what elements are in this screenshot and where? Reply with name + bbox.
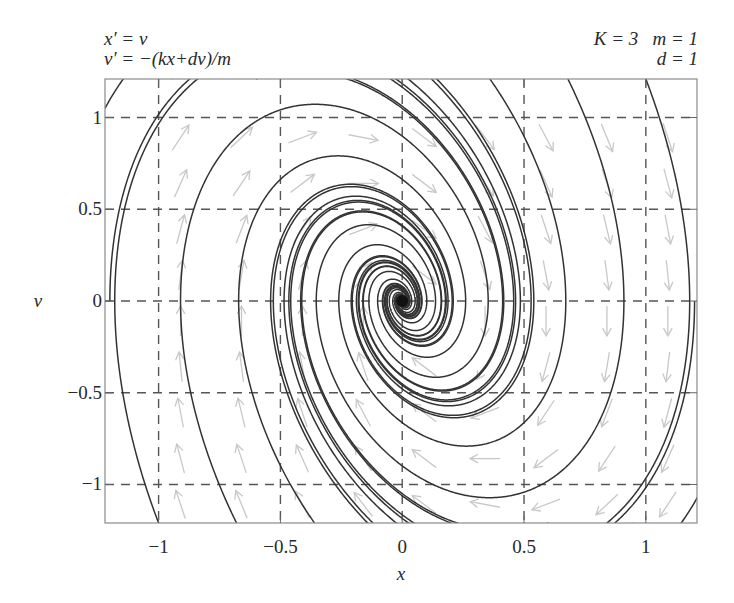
phase-portrait-plot xyxy=(0,0,734,603)
direction-arrow-icon xyxy=(541,215,552,243)
direction-arrow-icon xyxy=(412,450,436,468)
x-axis-label: x xyxy=(397,563,405,585)
direction-arrow-icon xyxy=(290,174,314,192)
direction-arrow-icon xyxy=(603,306,612,336)
direction-arrow-icon xyxy=(532,499,560,511)
trajectory-curve xyxy=(316,79,624,498)
x-tick-label: 0.5 xyxy=(512,537,536,557)
direction-arrow-icon xyxy=(540,170,553,197)
direction-arrow-icon xyxy=(288,131,316,143)
direction-arrow-icon xyxy=(664,260,673,290)
direction-arrow-icon xyxy=(231,127,253,148)
direction-arrow-icon xyxy=(543,260,551,289)
direction-arrow-icon xyxy=(235,444,246,472)
direction-arrow-icon xyxy=(172,125,189,150)
direction-arrow-icon xyxy=(412,129,436,147)
direction-arrow-icon xyxy=(601,124,613,152)
x-tick-label: −1 xyxy=(148,537,168,557)
direction-arrow-icon xyxy=(539,124,553,150)
direction-arrow-icon xyxy=(356,399,370,425)
y-tick-label: 0 xyxy=(93,291,103,311)
x-tick-label: −0.5 xyxy=(263,537,297,557)
direction-arrow-icon xyxy=(175,398,183,427)
x-tick-label: 0 xyxy=(397,537,407,557)
direction-arrow-icon xyxy=(663,352,672,382)
direction-arrow-icon xyxy=(175,170,188,197)
direction-arrow-icon xyxy=(175,444,185,473)
direction-arrow-icon xyxy=(599,446,616,471)
direction-arrow-icon xyxy=(296,445,309,472)
direction-arrow-icon xyxy=(664,306,673,336)
x-tick-label: 1 xyxy=(641,537,651,557)
direction-arrow-icon xyxy=(235,491,247,519)
direction-arrow-icon xyxy=(600,399,612,427)
direction-arrow-icon xyxy=(542,306,551,336)
direction-arrow-icon xyxy=(540,352,550,381)
direction-arrow-icon xyxy=(596,494,618,515)
direction-arrow-icon xyxy=(662,398,672,427)
y-tick-label: 0.5 xyxy=(78,199,102,219)
direction-arrow-icon xyxy=(470,454,500,463)
direction-field xyxy=(172,123,676,518)
y-tick-label: 1 xyxy=(93,108,103,128)
direction-arrow-icon xyxy=(665,215,673,244)
direction-arrow-icon xyxy=(534,450,558,468)
direction-arrow-icon xyxy=(664,169,674,198)
y-tick-label: −1 xyxy=(82,474,102,494)
direction-arrow-icon xyxy=(349,135,378,143)
direction-arrow-icon xyxy=(177,215,187,244)
direction-arrow-icon xyxy=(602,352,611,382)
direction-arrow-icon xyxy=(233,171,250,196)
y-axis-label: ν xyxy=(34,290,42,312)
direction-arrow-icon xyxy=(412,174,436,192)
direction-arrow-icon xyxy=(176,352,185,382)
direction-arrow-icon xyxy=(604,260,613,290)
equilibrium-point xyxy=(396,295,408,307)
direction-arrow-icon xyxy=(470,499,499,507)
direction-arrow-icon xyxy=(174,490,185,518)
direction-arrow-icon xyxy=(603,215,612,244)
y-tick-label: −0.5 xyxy=(68,383,102,403)
direction-arrow-icon xyxy=(236,398,245,427)
direction-arrow-icon xyxy=(660,492,677,517)
trajectory-curve xyxy=(181,104,489,523)
